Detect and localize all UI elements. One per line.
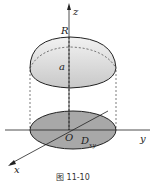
z-axis-label: z	[72, 6, 79, 17]
spherical-cap	[30, 37, 116, 88]
region-label-sub: xy	[89, 141, 96, 149]
origin-label: O	[65, 132, 73, 143]
height-label: a	[59, 61, 65, 72]
x-axis-label: x	[14, 164, 20, 175]
figure-caption: 图 11-10	[56, 173, 90, 182]
region-label-main: D	[80, 135, 89, 146]
y-axis-label: y	[139, 133, 146, 144]
diagram: z R a O Dxy y x 图 11-10	[0, 0, 155, 182]
radius-label: R	[60, 25, 69, 36]
